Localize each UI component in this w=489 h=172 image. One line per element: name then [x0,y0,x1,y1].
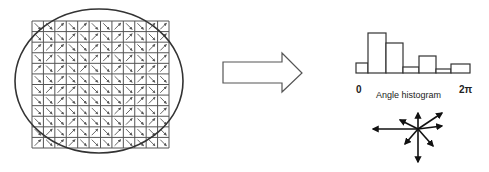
gradient-arrow [126,34,132,40]
gradient-arrow [115,55,121,61]
gradient-arrow [115,129,121,135]
gradient-arrow [160,87,166,93]
gradient-arrow [80,23,86,29]
gradient-arrow [80,34,86,40]
descriptor-vector [405,129,418,144]
gradient-arrow [57,118,63,124]
gradient-arrow [92,118,98,124]
histogram-bar [368,33,386,73]
gradient-arrow [57,66,63,72]
gradient-arrow [35,76,41,82]
gradient-arrow [80,76,86,82]
gradient-arrow [46,76,52,82]
gradient-arrow [126,55,132,61]
gradient-arrow [69,129,75,135]
histogram-title: Angle histogram [376,90,441,100]
gradient-arrow [160,108,166,114]
gradient-arrow [103,44,109,50]
gradient-arrow [149,87,155,93]
gradient-arrow [35,23,41,29]
gradient-arrow [46,34,52,40]
gradient-arrow [137,66,143,72]
gradient-arrow [126,76,132,82]
gradient-arrow [46,97,52,103]
gradient-arrow [35,97,41,103]
gradient-arrow [137,87,143,93]
gradient-arrow [115,76,121,82]
gradient-arrow [80,118,86,124]
gradient-arrow [57,87,63,93]
gradient-arrow [115,97,121,103]
gradient-arrow [69,34,75,40]
gradient-arrow [149,55,155,61]
gradient-arrow [126,23,132,29]
gradient-arrow [46,87,52,93]
gradient-arrow [149,140,155,146]
block-arrow-right-icon [223,53,302,92]
gradient-arrow [149,76,155,82]
gradient-arrow [35,87,41,93]
gradient-arrow [46,55,52,61]
gradient-arrow [57,129,63,135]
gradient-arrow [69,108,75,114]
gradient-arrow [80,66,86,72]
gradient-arrow [92,129,98,135]
histogram-bar [356,63,368,73]
gradient-arrow [103,87,109,93]
gradient-arrow [80,87,86,93]
gradient-arrow [57,34,63,40]
histogram-bar [451,64,470,73]
gradient-arrow [46,66,52,72]
gradient-arrow [103,97,109,103]
histogram-bar [403,67,419,73]
gradient-arrow [103,55,109,61]
gradient-arrow [160,97,166,103]
gradient-arrow [115,87,121,93]
gradient-arrow [115,44,121,50]
gradient-arrow [69,87,75,93]
gradient-arrow [57,23,63,29]
gradient-arrow [69,118,75,124]
gradient-arrow [115,118,121,124]
gradient-arrow [103,34,109,40]
gradient-arrow [103,76,109,82]
gradient-arrow [57,76,63,82]
gradient-arrow [160,44,166,50]
gradient-arrow [69,23,75,29]
gradient-arrow [126,44,132,50]
gradient-arrow [69,44,75,50]
gradient-arrow [149,129,155,135]
gradient-arrow [69,140,75,146]
gradient-arrow [103,23,109,29]
gradient-arrow [160,76,166,82]
gradient-arrow [69,76,75,82]
gradient-arrow [115,108,121,114]
gradient-arrow [69,66,75,72]
gradient-arrow [126,97,132,103]
gradient-arrow [137,108,143,114]
gradient-arrow [69,97,75,103]
gradient-arrow [103,140,109,146]
gradient-arrow [126,129,132,135]
histogram-bar [436,69,451,73]
histogram-x-max-label: 2π [459,84,473,95]
gradient-arrow [92,44,98,50]
gradient-arrow [35,66,41,72]
gradient-arrow [115,140,121,146]
gradient-arrow [92,87,98,93]
gradient-arrow [115,66,121,72]
gradient-arrow [160,118,166,124]
gradient-arrow [137,118,143,124]
gradient-arrow [80,140,86,146]
gradient-arrow [92,66,98,72]
gradient-arrow [57,108,63,114]
gradient-arrow [149,118,155,124]
gradient-arrow [46,108,52,114]
gradient-arrow [137,129,143,135]
gradient-arrow [126,140,132,146]
gradient-grid [32,21,169,148]
gradient-arrow [35,108,41,114]
gradient-arrow [46,44,52,50]
gradient-arrow [160,140,166,146]
angle-histogram [356,33,470,73]
